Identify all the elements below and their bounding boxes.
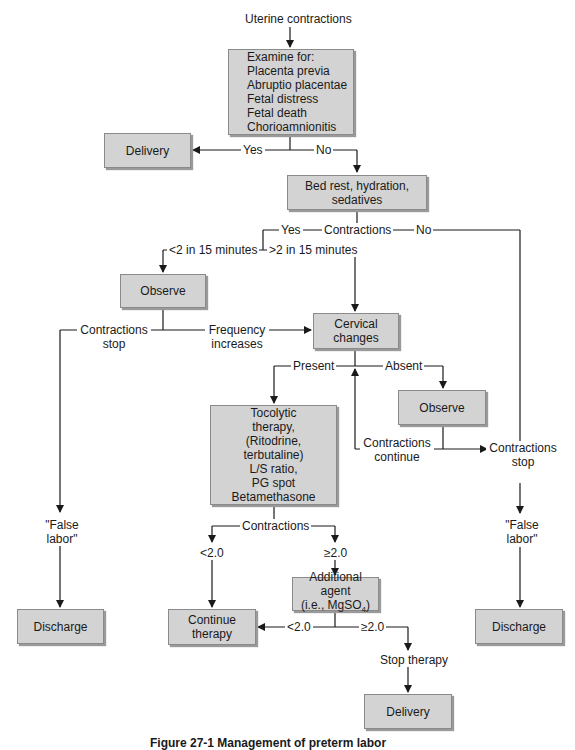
delivery-top-label: Delivery	[126, 144, 169, 158]
edge-label-gt2-in-15: >2 in 15 minutes	[267, 243, 359, 257]
tocolytic-line: Betamethasone	[231, 490, 315, 504]
bed-rest-label: Bed rest, hydration, sedatives	[288, 179, 426, 207]
examine-line: Placenta previa	[247, 64, 347, 78]
edge-label-ge2-0-a: ≥2.0	[322, 546, 349, 560]
edge-label-lt2-0-a: <2.0	[198, 546, 226, 560]
node-delivery-top[interactable]: Delivery	[104, 133, 191, 168]
figure-caption: Figure 27-1 Management of preterm labor	[150, 736, 386, 750]
edge-label-frequency-increases: Frequency increases	[205, 323, 269, 351]
node-delivery-bottom[interactable]: Delivery	[364, 694, 452, 729]
examine-line: Abruptio placentae	[247, 78, 347, 92]
tocolytic-line: therapy,	[231, 420, 315, 434]
examine-line: Examine for:	[247, 50, 347, 64]
node-continue-therapy[interactable]: Continue therapy	[168, 609, 256, 645]
label-false-labor-right: "False labor"	[500, 518, 544, 546]
delivery-bottom-label: Delivery	[386, 705, 429, 719]
node-bed-rest[interactable]: Bed rest, hydration, sedatives	[287, 175, 427, 210]
additional-agent-line: Additional agent	[293, 570, 378, 598]
node-observe-right[interactable]: Observe	[398, 390, 486, 425]
node-tocolytic-therapy[interactable]: Tocolytic therapy, (Ritodrine, terbutali…	[210, 405, 337, 505]
start-label-uterine-contractions: Uterine contractions	[243, 12, 354, 26]
node-examine-for[interactable]: Examine for: Placenta previa Abruptio pl…	[228, 49, 354, 135]
tocolytic-line: terbutaline)	[231, 448, 315, 462]
edge-label-yes-contractions: Yes	[279, 223, 303, 237]
edge-label-no-contractions: No	[414, 223, 433, 237]
label-line: Contractions	[362, 436, 432, 450]
edge-label-contractions-after-tocolytic: Contractions	[240, 519, 311, 533]
tocolytic-line: Tocolytic	[231, 406, 315, 420]
label-line: "False	[42, 518, 82, 532]
tocolytic-line: L/S ratio,	[231, 462, 315, 476]
node-additional-agent[interactable]: Additional agent (i.e., MgSO4)	[292, 577, 379, 611]
edge-label-contractions-stop-right: Contractions stop	[486, 441, 560, 469]
flowchart-canvas: Uterine contractions Examine for: Placen…	[0, 0, 575, 750]
edge-label-yes: Yes	[241, 143, 265, 157]
node-cervical-changes[interactable]: Cervical changes	[313, 313, 399, 349]
examine-line: Fetal distress	[247, 92, 347, 106]
label-line: Contractions	[488, 441, 558, 455]
edge-label-lt2-in-15: <2 in 15 minutes	[167, 243, 259, 257]
label-line: stop	[79, 337, 149, 351]
label-line: continue	[362, 450, 432, 464]
label-line: stop	[488, 455, 558, 469]
cervical-line: changes	[333, 331, 378, 345]
label-line: Frequency	[207, 323, 267, 337]
edge-label-no: No	[314, 143, 333, 157]
edge-label-contractions-stop-left: Contractions stop	[77, 323, 151, 351]
label-line: labor"	[42, 532, 82, 546]
additional-agent-line: (i.e., MgSO4)	[293, 598, 378, 617]
continue-therapy-line: therapy	[188, 627, 236, 641]
mgso-text: (i.e., MgSO	[301, 598, 362, 612]
edge-label-lt2-0-b: <2.0	[285, 620, 313, 634]
label-line: "False	[502, 518, 542, 532]
discharge-right-label: Discharge	[492, 620, 546, 634]
close-paren: )	[366, 598, 370, 612]
label-line: increases	[207, 337, 267, 351]
tocolytic-line: (Ritodrine,	[231, 434, 315, 448]
label-false-labor-left: "False labor"	[40, 518, 84, 546]
tocolytic-line: PG spot	[231, 476, 315, 490]
edge-label-contractions-continue: Contractions continue	[360, 436, 434, 464]
label-line: labor"	[502, 532, 542, 546]
edge-label-contractions: Contractions	[322, 223, 393, 237]
examine-line: Chorioamnionitis	[247, 120, 347, 134]
node-observe-left[interactable]: Observe	[120, 274, 206, 308]
cervical-line: Cervical	[333, 317, 378, 331]
node-discharge-left[interactable]: Discharge	[17, 609, 104, 644]
examine-line: Fetal death	[247, 106, 347, 120]
label-line: Contractions	[79, 323, 149, 337]
observe-left-label: Observe	[140, 284, 185, 298]
discharge-left-label: Discharge	[33, 620, 87, 634]
continue-therapy-line: Continue	[188, 613, 236, 627]
edge-label-ge2-0-b: ≥2.0	[359, 620, 386, 634]
edge-label-stop-therapy: Stop therapy	[378, 653, 450, 667]
edge-label-absent: Absent	[383, 359, 424, 373]
node-discharge-right[interactable]: Discharge	[475, 609, 563, 644]
observe-right-label: Observe	[419, 401, 464, 415]
edge-label-present: Present	[291, 359, 336, 373]
